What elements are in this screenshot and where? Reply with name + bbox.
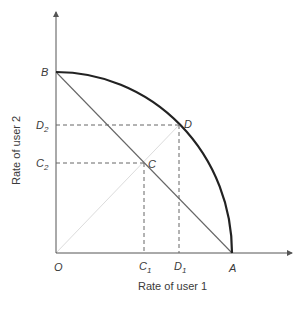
capacity-region-diagram: B D C O A D2 C2 C1 D1 Rate of user 1 Rat… xyxy=(0,0,304,309)
label-D1: D1 xyxy=(174,260,186,275)
label-A: A xyxy=(228,262,236,274)
label-O: O xyxy=(54,261,63,273)
y-axis-title: Rate of user 2 xyxy=(10,116,22,185)
label-C: C xyxy=(148,158,156,170)
x-axis-title: Rate of user 1 xyxy=(138,280,207,292)
label-B: B xyxy=(41,66,48,78)
label-D2: D2 xyxy=(36,119,49,134)
label-C1: C1 xyxy=(139,260,151,275)
label-C2: C2 xyxy=(36,157,49,172)
equal-rate-diagonal xyxy=(56,125,179,253)
label-D: D xyxy=(184,118,192,130)
